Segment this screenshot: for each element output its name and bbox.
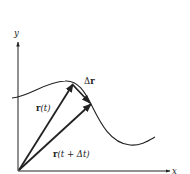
x-axis-label: x bbox=[172, 166, 177, 174]
trajectory-curve bbox=[12, 81, 155, 145]
label-r-t-plus-dt: r(t + Δt) bbox=[53, 149, 90, 159]
label-r-t: r(t) bbox=[36, 103, 51, 113]
label-delta-r: Δr bbox=[84, 76, 95, 86]
vector-delta-r bbox=[73, 85, 90, 103]
y-axis-label: y bbox=[13, 28, 19, 38]
position-vector-diagram: y x r(t) Δr r(t + Δt) bbox=[0, 0, 190, 174]
